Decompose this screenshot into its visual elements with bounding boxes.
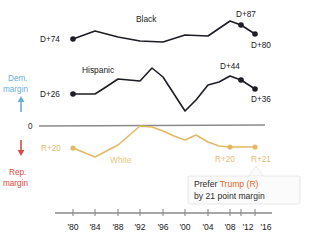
hispanic-series-point-peak	[238, 77, 244, 83]
hispanic-first-label: D+26	[40, 90, 60, 99]
white-series-point-first	[70, 145, 75, 150]
margin-by-race-chart: D+74 Black D+87 D+80 D+26 Hispanic D+44 …	[0, 0, 316, 238]
x-tick-label-1984: '84	[89, 222, 100, 232]
annotation-line2: by 21 point margin	[194, 191, 265, 201]
black-last-label: D+80	[251, 41, 271, 50]
hispanic-last-label: D+36	[251, 95, 271, 104]
hispanic-series-label: Hispanic	[82, 65, 114, 75]
white-series-point-2016	[252, 144, 257, 149]
black-series-point-peak	[238, 22, 244, 28]
x-tick-label-2016: '16	[260, 222, 271, 232]
x-tick-label-2012: '12	[242, 222, 253, 232]
black-peak-label: D+87	[236, 10, 256, 19]
rep-margin-label-line1: Rep.	[9, 168, 26, 177]
hispanic-series-point-last	[252, 86, 258, 92]
x-tick-label-1996: '96	[157, 222, 168, 232]
hispanic-series-point-first	[70, 91, 76, 97]
dem-margin-label-line1: Dem.	[8, 74, 28, 83]
x-tick-label-1988: '88	[112, 222, 123, 232]
hispanic-peak-label: D+44	[220, 62, 240, 71]
rep-margin-label-line2: margin	[3, 179, 28, 188]
black-first-label: D+74	[40, 35, 60, 44]
x-tick-label-2000: '00	[179, 222, 190, 232]
black-series-label: Black	[136, 14, 157, 24]
zero-label: 0	[28, 122, 33, 131]
white-series-label: White	[110, 155, 132, 165]
black-series-point-last	[252, 31, 258, 37]
x-tick-label-2004: '04	[202, 222, 213, 232]
x-tick-label-2008: '08	[224, 222, 235, 232]
x-tick-label-1980: '80	[67, 222, 78, 232]
dem-margin-label-line2: margin	[3, 85, 28, 94]
annotation-line1: Prefer Trump (R)	[194, 179, 259, 189]
white-series-point-2012	[227, 144, 232, 149]
white-2016-label: R+21	[251, 155, 271, 164]
black-series-point-first	[70, 36, 76, 42]
white-first-label: R+20	[41, 144, 61, 153]
zero-baseline	[39, 125, 265, 126]
x-tick-label-1992: '92	[134, 222, 145, 232]
annotation-accent: Trump (R)	[220, 179, 259, 189]
white-2012-label: R+20	[215, 155, 235, 164]
annotation-prefix: Prefer	[194, 179, 220, 189]
